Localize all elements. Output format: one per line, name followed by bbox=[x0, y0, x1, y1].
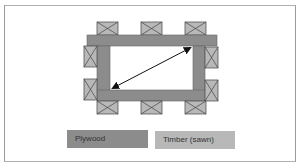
legend-plywood: Plywood bbox=[67, 130, 148, 148]
timber-block-top-1 bbox=[97, 22, 118, 35]
timber-block-bottom-2 bbox=[141, 101, 162, 114]
timber-block-left-1 bbox=[84, 46, 97, 67]
plywood-top-bar bbox=[87, 35, 217, 46]
legend-timber: Timber (sawn) bbox=[155, 131, 235, 149]
formwork-diagram bbox=[0, 0, 301, 166]
plywood-left-bar bbox=[97, 46, 110, 91]
timber-block-right-2 bbox=[205, 80, 218, 101]
legend-plywood-label: Plywood bbox=[75, 134, 105, 143]
timber-block-top-2 bbox=[141, 22, 162, 35]
timber-block-bottom-1 bbox=[97, 101, 118, 114]
timber-block-bottom-3 bbox=[185, 101, 206, 114]
plywood-bottom-bar bbox=[97, 90, 205, 101]
plywood-right-bar bbox=[193, 46, 205, 91]
timber-block-top-3 bbox=[185, 22, 206, 35]
legend-timber-label: Timber (sawn) bbox=[163, 135, 214, 144]
diagonal-arrow bbox=[113, 48, 190, 88]
timber-block-left-2 bbox=[84, 79, 97, 100]
timber-block-right-1 bbox=[205, 47, 218, 68]
